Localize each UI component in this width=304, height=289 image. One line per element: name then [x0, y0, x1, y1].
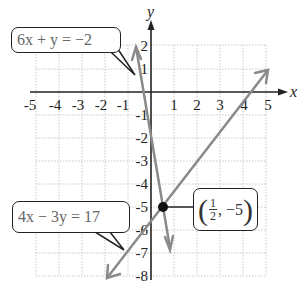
- svg-text:-3: -3: [72, 97, 85, 113]
- equation-callout-1: 6x + y = −2: [11, 27, 121, 53]
- paren-open: (: [198, 195, 208, 225]
- svg-text:-2: -2: [136, 130, 149, 146]
- svg-text:-7: -7: [136, 245, 149, 261]
- svg-text:5: 5: [264, 97, 272, 113]
- svg-text:-1: -1: [117, 97, 130, 113]
- svg-text:2: 2: [141, 38, 149, 54]
- svg-text:-6: -6: [136, 222, 149, 238]
- svg-text:1: 1: [170, 97, 178, 113]
- equation-callout-2: 4x − 3y = 17: [12, 201, 130, 233]
- svg-text:-3: -3: [136, 153, 149, 169]
- svg-text:-4: -4: [136, 176, 149, 192]
- point-y-text: , −5: [218, 201, 243, 219]
- y-axis-label: y: [145, 3, 155, 21]
- svg-text:-5: -5: [24, 97, 37, 113]
- svg-text:2: 2: [193, 97, 201, 113]
- intersection-point: [158, 202, 168, 212]
- axes: [30, 20, 288, 280]
- y-axis-arrow-icon: [148, 20, 155, 30]
- y-tick-labels: 2 1 -1 -2 -3 -4 -5 -6 -7 -8: [136, 38, 149, 284]
- svg-text:-5: -5: [136, 199, 149, 215]
- equation-1-text: 6x + y = −2: [17, 31, 92, 48]
- svg-text:-8: -8: [136, 268, 149, 284]
- paren-close: ): [243, 195, 253, 225]
- fraction: 1 2: [209, 197, 217, 222]
- svg-text:-2: -2: [95, 97, 108, 113]
- equation-2-text: 4x − 3y = 17: [18, 208, 100, 225]
- x-axis-label: x: [289, 83, 297, 100]
- svg-text:-4: -4: [49, 97, 62, 113]
- intersection-callout: ( 1 2 , −5 ): [193, 188, 258, 231]
- line-4x-minus-3y: [107, 70, 268, 278]
- x-axis-arrow-icon: [278, 89, 288, 96]
- svg-text:3: 3: [216, 97, 224, 113]
